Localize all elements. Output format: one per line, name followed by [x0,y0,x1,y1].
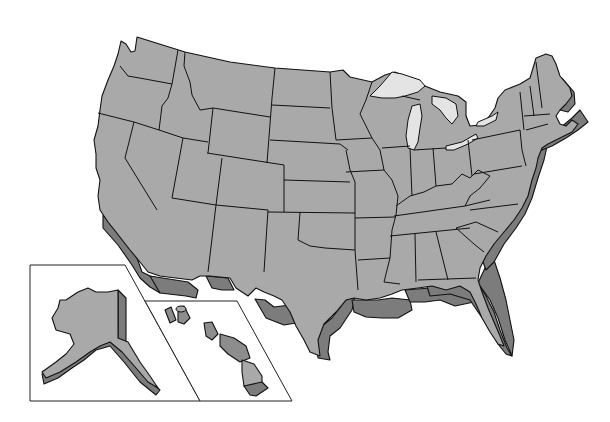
hawaii-niihau-top [176,306,186,312]
us-map [0,0,610,422]
louisiana-side [352,298,412,318]
